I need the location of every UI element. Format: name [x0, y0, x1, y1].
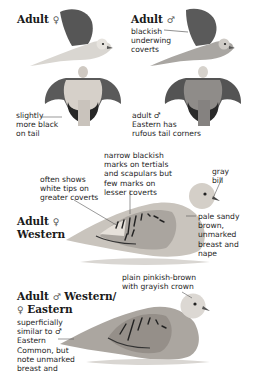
plate-title-adult-female: Adult ♀: [17, 13, 59, 26]
note-line: rufous tail corners: [132, 129, 201, 138]
note-line: lesser coverts: [104, 188, 172, 197]
male-symbol-icon: ♂: [53, 292, 61, 302]
note-line: gray: [212, 167, 229, 176]
note-white-tips-greater-coverts: often shows white tips on greater covert…: [40, 175, 98, 203]
note-line: more black: [16, 120, 58, 129]
title-text: Adult: [131, 13, 163, 25]
note-line: superficially: [17, 318, 75, 327]
note-line: underwing: [131, 36, 171, 45]
note-line: note unmarked: [17, 355, 75, 364]
note-line: white tips on: [40, 184, 98, 193]
note-line: similar to ♂: [17, 327, 75, 336]
note-more-black-on-tail: slightly more black on tail: [16, 111, 58, 139]
note-line: breast and: [198, 240, 239, 249]
note-line: few marks on: [104, 179, 172, 188]
note-line: blackish: [131, 27, 171, 36]
note-line: brown,: [198, 221, 239, 230]
note-line: Eastern: [17, 336, 75, 345]
note-rufous-tail-corners: adult ♂ Eastern has rufous tail corners: [132, 111, 201, 139]
female-symbol-icon: ♀: [17, 305, 24, 315]
note-line: and scapulars but: [104, 169, 172, 178]
title-text: Western: [17, 228, 65, 240]
title-text: Eastern: [27, 303, 72, 315]
plate-title-adult-female-western: Adult ♀ Western: [17, 215, 65, 240]
note-superficially-similar: superficially similar to ♂ Eastern Commo…: [17, 318, 75, 371]
note-pale-sandy-brown-breast: pale sandy brown, unmarked breast and na…: [198, 212, 239, 258]
note-line: adult ♂: [132, 111, 201, 120]
note-line: Common, but: [17, 346, 75, 355]
note-line: marks on tertials: [104, 160, 172, 169]
note-line: greater coverts: [40, 193, 98, 202]
female-symbol-icon: ♀: [53, 217, 60, 227]
note-plain-pinkish-brown-crown: plain pinkish-brown with grayish crown: [122, 273, 196, 291]
title-text: Adult: [17, 290, 49, 302]
note-line: on tail: [16, 129, 58, 138]
note-line: Eastern has: [132, 120, 201, 129]
title-text: Adult: [17, 13, 49, 25]
note-line: breast and: [17, 364, 75, 371]
note-line: coverts: [131, 45, 171, 54]
male-symbol-icon: ♂: [167, 15, 175, 25]
note-narrow-blackish-marks: narrow blackish marks on tertials and sc…: [104, 151, 172, 197]
female-symbol-icon: ♀: [53, 15, 60, 25]
title-text: Adult: [17, 215, 49, 227]
note-line: unmarked: [198, 230, 239, 239]
title-text: Western/: [64, 290, 116, 302]
note-gray-bill: gray bill: [212, 167, 229, 185]
plate-title-male-western-female-eastern: Adult ♂ Western/ ♀ Eastern: [17, 290, 116, 316]
note-line: plain pinkish-brown: [122, 273, 196, 282]
note-line: often shows: [40, 175, 98, 184]
note-line: pale sandy: [198, 212, 239, 221]
note-line: slightly: [16, 111, 58, 120]
note-line: bill: [212, 176, 229, 185]
note-blackish-underwing-coverts: blackish underwing coverts: [131, 27, 171, 55]
note-line: narrow blackish: [104, 151, 172, 160]
plate-title-adult-male: Adult ♂: [131, 13, 175, 26]
note-line: nape: [198, 249, 239, 258]
note-line: with grayish crown: [122, 282, 196, 291]
